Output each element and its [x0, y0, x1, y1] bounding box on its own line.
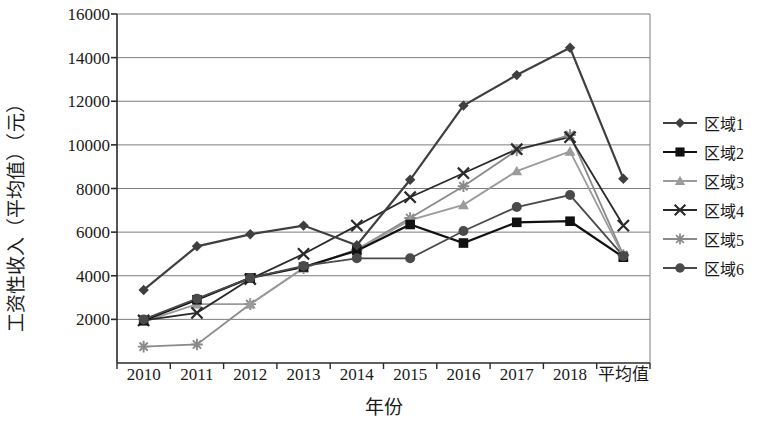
data-point-circle-marker — [245, 273, 255, 283]
data-point-cross-marker — [618, 220, 629, 231]
legend-item-区域6[interactable]: 区域6 — [662, 253, 744, 282]
data-point-cross-marker — [458, 168, 469, 179]
data-point-circle-marker — [299, 261, 309, 271]
legend-item-区域5[interactable]: 区域5 — [662, 224, 744, 253]
x-axis-tick: 2018 — [553, 366, 587, 383]
data-point-square-marker — [459, 238, 469, 248]
legend-marker-circle-icon — [662, 259, 698, 277]
data-point-square-marker — [405, 220, 415, 230]
data-point-circle-marker — [192, 294, 202, 304]
data-point-star-marker — [458, 181, 470, 193]
data-point-diamond-marker — [245, 229, 255, 239]
data-point-circle-marker — [352, 253, 362, 263]
legend-marker-triangle-icon — [662, 172, 698, 190]
legend-item-区域4[interactable]: 区域4 — [662, 195, 744, 224]
legend-marker-diamond-icon — [662, 114, 698, 132]
data-point-diamond-marker — [675, 118, 685, 128]
data-point-cross-marker — [351, 220, 362, 231]
data-point-circle-marker — [405, 253, 415, 263]
legend-label: 区域1 — [704, 111, 744, 135]
chart-root: 工资性收入（平均值）（元） 16000140001200010000800060… — [0, 0, 773, 427]
x-axis-tick: 2014 — [340, 366, 374, 383]
legend-item-区域3[interactable]: 区域3 — [662, 166, 744, 195]
legend: 区域1区域2区域3区域4区域5区域6 — [662, 108, 744, 282]
legend-marker-star-icon — [662, 230, 698, 248]
data-point-triangle-marker — [458, 199, 469, 209]
x-axis-tick: 2017 — [500, 366, 534, 383]
plot-area — [0, 0, 773, 427]
series-区域1 — [144, 48, 624, 290]
x-axis-tick: 2013 — [287, 366, 321, 383]
legend-item-区域1[interactable]: 区域1 — [662, 108, 744, 137]
x-axis-tick: 2012 — [233, 366, 267, 383]
series-line — [144, 135, 624, 347]
x-axis-tick: 平均值 — [598, 366, 649, 383]
series-line — [144, 221, 624, 320]
data-point-cross-marker — [298, 248, 309, 259]
legend-marker-square-icon — [662, 143, 698, 161]
data-point-circle-marker — [512, 202, 522, 212]
series-区域2 — [144, 221, 624, 320]
data-point-star-marker — [564, 129, 576, 141]
legend-item-区域2[interactable]: 区域2 — [662, 137, 744, 166]
data-point-square-marker — [512, 218, 522, 228]
data-point-triangle-marker — [565, 146, 576, 156]
legend-label: 区域5 — [704, 227, 744, 251]
legend-label: 区域6 — [704, 256, 744, 280]
data-point-diamond-marker — [298, 220, 308, 230]
data-point-cross-marker — [405, 192, 416, 203]
data-point-square-marker — [565, 216, 575, 226]
x-axis-tick: 2011 — [180, 366, 213, 383]
x-axis-tick: 2015 — [393, 366, 427, 383]
data-point-star-marker — [138, 341, 150, 353]
legend-label: 区域4 — [704, 198, 744, 222]
legend-marker-cross-icon — [662, 201, 698, 219]
data-point-circle-marker — [458, 226, 468, 236]
legend-label: 区域3 — [704, 169, 744, 193]
data-point-diamond-marker — [512, 70, 522, 80]
data-point-square-marker — [675, 147, 684, 156]
series-line — [144, 48, 624, 290]
x-axis-title: 年份 — [117, 392, 650, 419]
data-point-circle-marker — [565, 190, 575, 200]
series-区域5 — [144, 135, 624, 347]
x-axis-tick: 2010 — [127, 366, 161, 383]
legend-label: 区域2 — [704, 140, 744, 164]
data-point-circle-marker — [618, 251, 628, 261]
data-point-diamond-marker — [565, 43, 575, 53]
data-point-circle-marker — [139, 314, 149, 324]
data-point-star-marker — [674, 233, 685, 244]
data-point-circle-marker — [675, 263, 685, 273]
data-point-star-marker — [191, 339, 203, 351]
data-point-diamond-marker — [618, 173, 628, 183]
x-axis-tick: 2016 — [446, 366, 480, 383]
